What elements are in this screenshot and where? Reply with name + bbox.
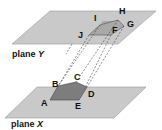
label-B: B [52, 79, 59, 89]
label-A: A [41, 98, 48, 108]
label-D: D [88, 89, 95, 99]
label-C: C [74, 72, 81, 82]
label-E: E [75, 101, 81, 111]
plane-x-word: plane [11, 119, 35, 129]
plane-y-word: plane [12, 49, 36, 59]
connector-upper [66, 44, 72, 54]
plane-y [12, 11, 156, 44]
label-F: F [112, 25, 118, 35]
plane-y-letter: Y [38, 49, 45, 59]
label-H: H [119, 6, 126, 16]
label-G: G [127, 19, 134, 29]
plane-x-letter: X [36, 119, 44, 129]
label-I: I [94, 13, 97, 23]
parallel-planes-diagram: H G I F J B C D A E plane Y plane X [0, 0, 162, 130]
label-J: J [78, 30, 83, 40]
plane-x-label: plane X [11, 119, 44, 129]
plane-y-label: plane Y [12, 49, 45, 59]
